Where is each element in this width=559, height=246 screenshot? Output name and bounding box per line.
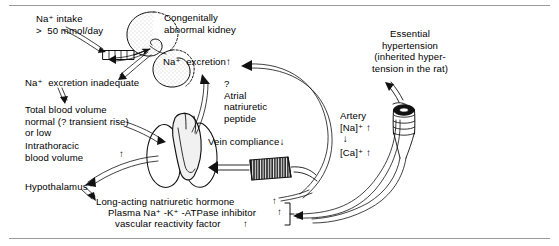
label-hypothalamus: Hypothalamus [25,181,88,193]
label-artery-na: Artery [Na]⁺ ↑ ↓ [340,110,371,145]
vein-compliance-down-arrow-icon: ↓ [279,136,284,147]
label-artery-text: Artery [340,110,366,121]
figure-canvas: Na⁺ intake > 50 mmol/day Congenitally ab… [0,0,559,246]
label-vein-compliance: Vein compliance↓ [208,136,284,148]
label-na-excretion-inadequate: Na⁺ excretion inadequate [25,77,139,89]
label-intrathoracic-blood-volume: Intrathoracic blood volume [25,140,83,163]
label-na-intake: Na⁺ intake > 50 mmol/day [36,13,103,36]
label-vein-compliance-text: Vein compliance [208,136,279,147]
top-rule [9,5,550,6]
label-vascular-reactivity-factor: vascular reactivity factor [115,218,221,230]
label-artery-ca: [Ca]⁺ ↑ [340,147,371,159]
artery-na-up-arrow-icon: ↑ [366,122,371,133]
intrathoracic-up-arrow-icon: ↑ [119,148,124,160]
label-anp-text: Atrial natriuretic peptide [224,90,267,124]
artery-link-down-arrow-icon: ↓ [343,133,348,144]
label-essential-hypertension: Essential hypertension (inherited hyper-… [348,28,472,74]
label-question-mark: ? [224,78,229,89]
label-na-excretion-text: Na⁺ excretion [163,56,226,67]
bottom-rule [9,238,550,239]
long-acting-hormone-up-arrow-icon: ↑ [272,195,277,207]
label-na-excretion: Na⁺ excretion↑ [163,56,231,68]
label-atrial-natriuretic-peptide: ? Atrial natriuretic peptide [224,78,267,124]
label-artery-na-text: [Na]⁺ [340,122,363,133]
label-congenitally-abnormal-kidney: Congenitally abnormal kidney [164,12,236,35]
label-long-acting-natriuretic-hormone: Long-acting natriuretic hormone [96,196,235,208]
artery-ca-up-arrow-icon: ↑ [366,147,371,158]
plasma-atpase-inhibitor-up-arrow-icon: ↑ [277,206,282,218]
label-plasma-atpase-inhibitor: Plasma Na⁺ -K⁺ -ATPase inhibitor [108,207,256,219]
na-excretion-up-arrow-icon: ↑ [226,56,231,67]
label-total-blood-volume: Total blood volume normal (? transient r… [25,104,129,139]
label-artery-ca-text: [Ca]⁺ [340,147,363,158]
vascular-reactivity-factor-up-arrow-icon: ↑ [243,218,248,230]
